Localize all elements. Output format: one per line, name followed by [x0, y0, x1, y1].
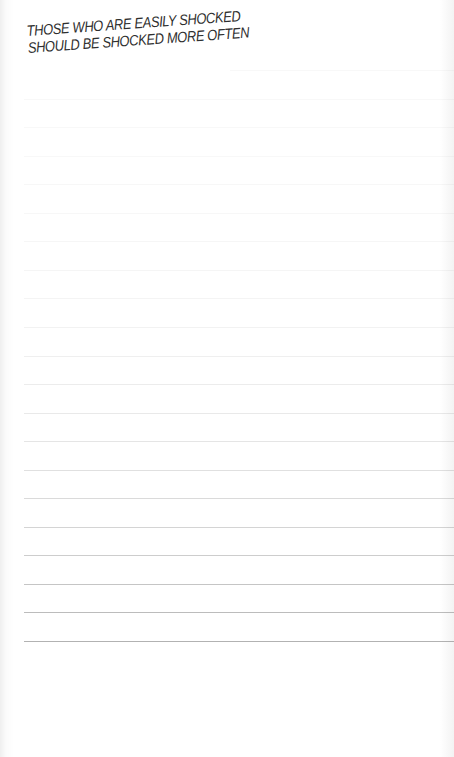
ruled-line [24, 270, 454, 271]
ruled-line [24, 413, 454, 414]
ruled-line [24, 213, 454, 214]
ruled-line [24, 641, 454, 642]
ruled-line [24, 527, 454, 528]
ruled-line [24, 470, 454, 471]
ruled-line [24, 584, 454, 585]
ruled-line [24, 241, 454, 242]
ruled-line [24, 612, 454, 613]
ruled-line [24, 555, 454, 556]
ruled-line [24, 384, 454, 385]
ruled-line [24, 156, 454, 157]
notebook-page: THOSE WHO ARE EASILY SHOCKED SHOULD BE S… [0, 0, 454, 757]
ruled-line [24, 99, 454, 100]
ruled-line [24, 498, 454, 499]
ruled-line [24, 327, 454, 328]
ruled-line [230, 70, 454, 71]
ruled-line [24, 356, 454, 357]
quote-heading: THOSE WHO ARE EASILY SHOCKED SHOULD BE S… [26, 7, 250, 56]
ruled-line [24, 184, 454, 185]
ruled-line [24, 441, 454, 442]
ruled-line [24, 298, 454, 299]
ruled-line [24, 127, 454, 128]
